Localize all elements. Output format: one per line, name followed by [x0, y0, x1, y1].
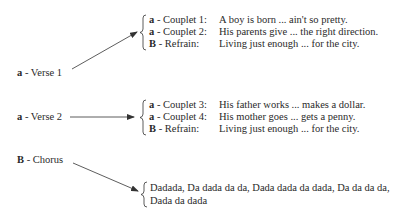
chorus-brace — [141, 182, 147, 207]
form-letter: B — [149, 38, 156, 49]
form-letter: B — [17, 154, 24, 165]
chorus-arrow — [73, 163, 138, 191]
section-name: - Verse 1 — [22, 67, 62, 78]
list-item: B - Refrain:Living just enough ... for t… — [149, 38, 359, 50]
lyric-text: His father works ... makes a dollar. — [219, 99, 365, 110]
verse1-label: a - Verse 1 — [17, 67, 62, 79]
chorus-label: B - Chorus — [17, 154, 63, 166]
lyric-text: His mother goes ... gets a penny. — [219, 111, 355, 122]
verse1-arrow — [72, 32, 137, 69]
form-letter: B — [149, 123, 156, 134]
chorus-line: Dadada, Da dada da da, Dada dada da dada… — [150, 182, 390, 194]
lyric-text: Living just enough ... for the city. — [219, 123, 359, 134]
verse2-label: a - Verse 2 — [17, 111, 62, 123]
list-item: a - Couplet 1:A boy is born ... ain't so… — [149, 14, 348, 26]
chorus-line: Dada da dada — [150, 195, 207, 207]
item-name: - Couplet 2: — [154, 26, 207, 37]
item-name: - Couplet 4: — [154, 111, 207, 122]
section-name: - Verse 2 — [22, 111, 62, 122]
list-item: a - Couplet 3:His father works ... makes… — [149, 99, 365, 111]
section-name: - Chorus — [24, 154, 63, 165]
list-item: a - Couplet 4:His mother goes ... gets a… — [149, 111, 355, 123]
item-name: - Couplet 3: — [154, 99, 207, 110]
item-name: - Refrain: — [156, 123, 199, 134]
list-item: B - Refrain:Living just enough ... for t… — [149, 123, 359, 135]
list-item: a - Couplet 2:His parents give ... the r… — [149, 26, 378, 38]
lyric-text: A boy is born ... ain't so pretty. — [219, 14, 348, 25]
item-name: - Couplet 1: — [154, 14, 207, 25]
item-name: - Refrain: — [156, 38, 199, 49]
verse1-brace — [140, 15, 146, 50]
lyric-text: His parents give ... the right direction… — [219, 26, 378, 37]
lyric-text: Living just enough ... for the city. — [219, 38, 359, 49]
verse2-brace — [140, 100, 146, 135]
